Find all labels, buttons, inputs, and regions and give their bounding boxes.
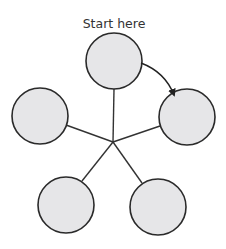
node-right xyxy=(159,89,215,145)
cycle-diagram: Start here xyxy=(0,0,226,249)
spoke-bottom-right xyxy=(113,142,142,183)
spoke-top xyxy=(113,89,114,142)
node-bottom-left xyxy=(38,177,94,233)
start-here-label: Start here xyxy=(83,16,146,31)
node-top xyxy=(86,33,142,89)
node-bottom-right xyxy=(130,179,186,235)
spoke-left xyxy=(66,125,113,142)
node-left xyxy=(12,88,68,144)
clockwise-arrow-icon xyxy=(141,63,174,95)
spoke-right xyxy=(113,126,160,142)
spoke-bottom-left xyxy=(82,142,113,181)
